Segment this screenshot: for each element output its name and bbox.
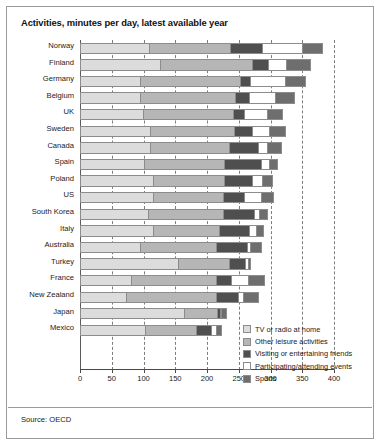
bar-segment[interactable] — [251, 76, 285, 87]
bar-segment[interactable] — [149, 209, 224, 220]
bar-segment[interactable] — [80, 76, 141, 87]
bar-segment[interactable] — [244, 292, 259, 303]
bar-segment[interactable] — [154, 192, 224, 203]
stacked-bar[interactable] — [80, 175, 273, 186]
bar-segment[interactable] — [220, 225, 250, 236]
stacked-bar[interactable] — [80, 209, 268, 220]
bar-segment[interactable] — [236, 92, 250, 103]
stacked-bar[interactable] — [80, 292, 259, 303]
bar-segment[interactable] — [80, 308, 185, 319]
bar-segment[interactable] — [222, 308, 227, 319]
bar-segment[interactable] — [80, 109, 144, 120]
bar-segment[interactable] — [270, 126, 285, 137]
bar-segment[interactable] — [263, 175, 273, 186]
bar-segment[interactable] — [145, 159, 225, 170]
bar-segment[interactable] — [217, 275, 232, 286]
bar-segment[interactable] — [80, 225, 154, 236]
bar-segment[interactable] — [260, 209, 268, 220]
bar-segment[interactable] — [146, 325, 197, 336]
bar-segment[interactable] — [185, 308, 218, 319]
bar-segment[interactable] — [224, 209, 256, 220]
bar-segment[interactable] — [249, 275, 266, 286]
bar-segment[interactable] — [80, 175, 154, 186]
stacked-bar[interactable] — [80, 142, 282, 153]
bar-segment[interactable] — [80, 275, 132, 286]
bar-segment[interactable] — [249, 258, 252, 269]
stacked-bar[interactable] — [80, 76, 306, 87]
bar-segment[interactable] — [141, 242, 217, 253]
bar-segment[interactable] — [262, 159, 271, 170]
bar-segment[interactable] — [269, 59, 287, 70]
bar-segment[interactable] — [80, 59, 161, 70]
legend-item[interactable]: Participating/attending events — [243, 360, 380, 372]
stacked-bar[interactable] — [80, 242, 262, 253]
bar-segment[interactable] — [150, 43, 231, 54]
bar-segment[interactable] — [230, 142, 259, 153]
bar-segment[interactable] — [286, 76, 306, 87]
legend-item[interactable]: TV or radio at home — [243, 323, 380, 335]
stacked-bar[interactable] — [80, 43, 323, 54]
bar-segment[interactable] — [161, 59, 252, 70]
bar-segment[interactable] — [80, 209, 149, 220]
stacked-bar[interactable] — [80, 92, 295, 103]
bar-segment[interactable] — [234, 109, 245, 120]
bar-segment[interactable] — [154, 175, 225, 186]
bar-segment[interactable] — [141, 92, 236, 103]
bar-segment[interactable] — [245, 192, 262, 203]
stacked-bar[interactable] — [80, 59, 311, 70]
bar-segment[interactable] — [80, 258, 179, 269]
bar-segment[interactable] — [80, 159, 145, 170]
bar-segment[interactable] — [80, 192, 154, 203]
bar-segment[interactable] — [263, 43, 303, 54]
bar-segment[interactable] — [257, 225, 265, 236]
bar-segment[interactable] — [224, 192, 246, 203]
bar-segment[interactable] — [80, 292, 127, 303]
stacked-bar[interactable] — [80, 225, 264, 236]
stacked-bar[interactable] — [80, 258, 251, 269]
bar-segment[interactable] — [80, 142, 151, 153]
bar-segment[interactable] — [151, 126, 235, 137]
bar-segment[interactable] — [259, 142, 268, 153]
stacked-bar[interactable] — [80, 308, 227, 319]
bar-segment[interactable] — [197, 325, 212, 336]
bar-segment[interactable] — [231, 43, 263, 54]
bar-segment[interactable] — [80, 92, 141, 103]
bar-segment[interactable] — [287, 59, 311, 70]
bar-segment[interactable] — [154, 225, 220, 236]
bar-segment[interactable] — [303, 43, 323, 54]
bar-segment[interactable] — [127, 292, 217, 303]
bar-segment[interactable] — [80, 43, 150, 54]
bar-segment[interactable] — [225, 175, 253, 186]
bar-segment[interactable] — [80, 242, 141, 253]
stacked-bar[interactable] — [80, 159, 278, 170]
bar-segment[interactable] — [232, 275, 249, 286]
bar-segment[interactable] — [217, 242, 247, 253]
bar-segment[interactable] — [268, 109, 283, 120]
bar-segment[interactable] — [80, 325, 146, 336]
bar-segment[interactable] — [268, 142, 282, 153]
bar-segment[interactable] — [253, 126, 271, 137]
bar-segment[interactable] — [230, 258, 247, 269]
bar-segment[interactable] — [151, 142, 230, 153]
legend-item[interactable]: Other leisure activities — [243, 335, 380, 347]
bar-segment[interactable] — [144, 109, 234, 120]
stacked-bar[interactable] — [80, 192, 274, 203]
bar-segment[interactable] — [251, 242, 261, 253]
bar-segment[interactable] — [262, 192, 275, 203]
bar-segment[interactable] — [141, 76, 241, 87]
bar-segment[interactable] — [245, 109, 268, 120]
bar-segment[interactable] — [80, 126, 151, 137]
stacked-bar[interactable] — [80, 275, 265, 286]
bar-segment[interactable] — [217, 325, 222, 336]
stacked-bar[interactable] — [80, 325, 222, 336]
legend-item[interactable]: Visiting or entertaining friends — [243, 348, 380, 360]
bar-segment[interactable] — [276, 92, 295, 103]
stacked-bar[interactable] — [80, 126, 286, 137]
stacked-bar[interactable] — [80, 109, 283, 120]
bar-segment[interactable] — [241, 76, 251, 87]
bar-segment[interactable] — [250, 92, 275, 103]
bar-segment[interactable] — [217, 292, 239, 303]
bar-segment[interactable] — [132, 275, 217, 286]
bar-segment[interactable] — [253, 59, 270, 70]
bar-segment[interactable] — [235, 126, 253, 137]
